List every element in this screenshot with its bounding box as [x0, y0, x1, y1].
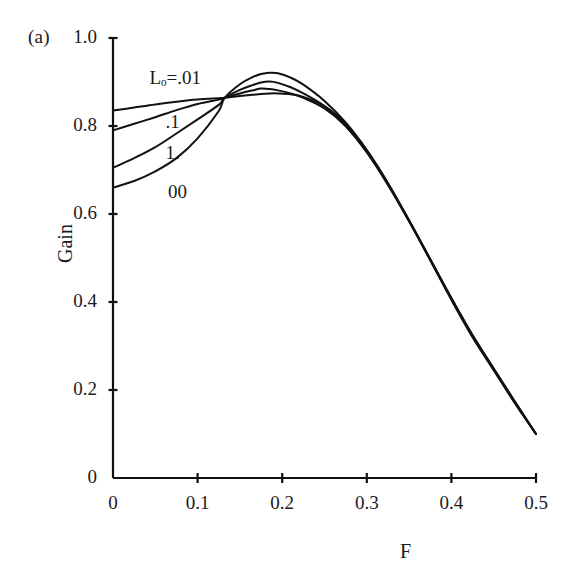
curve-series-2: [113, 82, 536, 434]
figure-panel-a: (a) Gain F 00.20.40.60.81.000.10.20.30.4…: [0, 0, 571, 585]
x-tick-label: 0.1: [168, 492, 228, 514]
curve-label-3: 00: [168, 181, 187, 203]
x-tick-label: 0.3: [337, 492, 397, 514]
curve-label-1: .1: [165, 111, 179, 133]
x-tick-label: 0.4: [421, 492, 481, 514]
curve-series-1: [113, 89, 536, 434]
curve-label-0: Lₒ=.01: [149, 67, 201, 89]
x-tick-label: 0: [83, 492, 143, 514]
x-tick-label: 0.5: [506, 492, 566, 514]
curve-label-2: 1.: [165, 142, 179, 164]
y-tick-label: 1.0: [35, 26, 97, 48]
x-tick-label: 0.2: [252, 492, 312, 514]
y-tick-label: 0.8: [35, 114, 97, 136]
y-tick-label: 0: [35, 466, 97, 488]
y-tick-label: 0.2: [35, 378, 97, 400]
x-axis-label: F: [400, 540, 411, 563]
y-tick-label: 0.6: [35, 202, 97, 224]
y-tick-label: 0.4: [35, 290, 97, 312]
